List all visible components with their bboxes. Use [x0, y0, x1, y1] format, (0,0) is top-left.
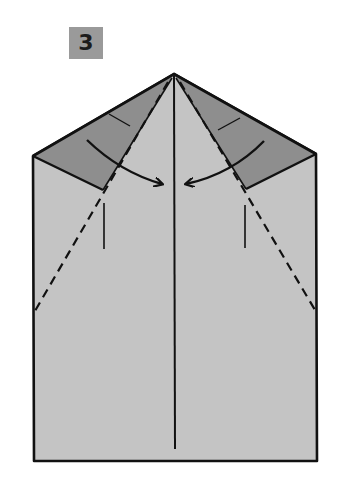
fold-diagram [0, 0, 339, 495]
center-crease-line [174, 76, 175, 449]
